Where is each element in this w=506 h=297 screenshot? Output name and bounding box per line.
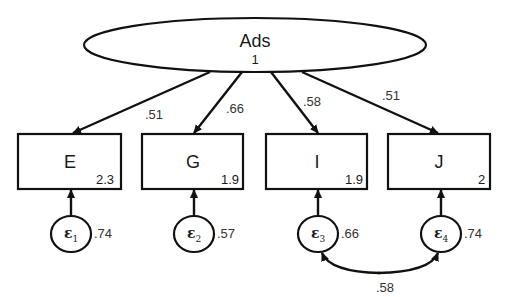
loading-label-g: .66: [226, 102, 244, 115]
observed-name-g: G: [186, 153, 200, 171]
error-variance-4: .74: [464, 227, 482, 240]
error-name-4: ε4: [434, 226, 448, 244]
error-name-1: ε1: [64, 226, 78, 244]
intercept-e: 2.3: [96, 173, 114, 186]
loading-label-i: .58: [303, 95, 321, 108]
intercept-j: 2: [478, 173, 485, 186]
observed-name-j: J: [435, 153, 444, 171]
path-ads-to-j: [302, 72, 438, 133]
latent-name: Ads: [239, 32, 270, 50]
covariance-label-e3-e4: .58: [376, 281, 394, 294]
covariance-arc-e3-e4: [322, 253, 380, 273]
error-variance-1: .74: [94, 227, 112, 240]
error-variance-2: .57: [217, 227, 235, 240]
loading-label-j: .51: [382, 89, 400, 102]
latent-variance: 1: [251, 53, 258, 66]
covariance-arc-e4-e3: [378, 253, 438, 273]
path-ads-to-e: [73, 72, 210, 133]
observed-name-e: E: [64, 153, 76, 171]
intercept-i: 1.9: [345, 173, 363, 186]
error-name-3: ε3: [311, 226, 325, 244]
observed-name-i: I: [314, 153, 319, 171]
intercept-g: 1.9: [221, 173, 239, 186]
loading-label-e: .51: [145, 108, 163, 121]
error-name-2: ε2: [187, 226, 201, 244]
error-variance-3: .66: [341, 227, 359, 240]
